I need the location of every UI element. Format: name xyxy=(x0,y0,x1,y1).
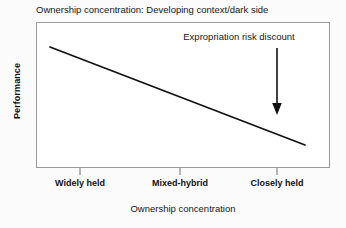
performance-trend-line xyxy=(50,47,305,145)
x-tick-label-closely-held: Closely held xyxy=(250,178,303,188)
x-tick-label-mixed-hybrid: Mixed-hybrid xyxy=(152,178,208,188)
expropriation-arrow-head xyxy=(272,103,282,115)
chart-figure: Ownership concentration: Developing cont… xyxy=(0,0,346,228)
y-axis-label: Performance xyxy=(12,53,22,129)
x-axis-title: Ownership concentration xyxy=(36,203,330,214)
x-tick-label-widely-held: Widely held xyxy=(55,178,105,188)
expropriation-risk-annotation: Expropriation risk discount xyxy=(172,31,306,43)
